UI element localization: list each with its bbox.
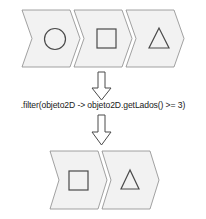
down-arrow-icon: [92, 72, 111, 100]
output-chevron-1: [50, 151, 107, 209]
output-stream: [50, 151, 159, 209]
input-chevron-2: [74, 10, 132, 67]
output-chevron-2: [102, 151, 159, 209]
input-stream: [22, 10, 184, 67]
input-chevron-3: [126, 10, 184, 67]
filter-operation-label: .filter(objeto2D -> objeto2D.getLados() …: [0, 100, 206, 110]
input-chevron-1: [22, 10, 80, 67]
down-arrow-icon: [92, 115, 111, 145]
